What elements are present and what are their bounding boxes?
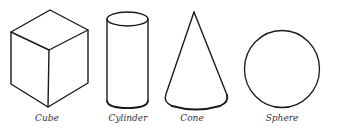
sphere-label: Sphere: [266, 113, 299, 123]
cone-shape: [165, 12, 227, 110]
cylinder-label: Cylinder: [109, 113, 148, 123]
cone-label: Cone: [180, 113, 203, 123]
cube-label: Cube: [35, 113, 59, 123]
cylinder-shape: [107, 12, 148, 108]
solid-shapes-figure: Cube Cylinder Cone Sphere: [0, 0, 341, 136]
cube-shape: [11, 10, 88, 107]
sphere-shape: [245, 31, 320, 108]
